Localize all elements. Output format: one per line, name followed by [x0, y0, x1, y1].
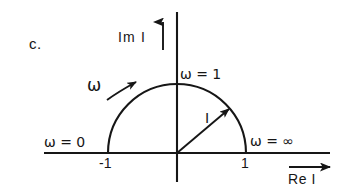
panel-letter: c. [29, 36, 42, 51]
phasor-vector-label: I [205, 110, 210, 125]
figure-canvas [0, 0, 359, 195]
omega-equals-one-label: ω = 1 [180, 67, 221, 81]
nyquist-semicircle-figure: c. Im I Re I ω ω = 1 ω = 0 ω = ∞ -1 1 I [0, 0, 359, 195]
real-axis-label: Re I [288, 172, 316, 186]
omega-sweep-label: ω [87, 77, 101, 94]
tick-label-minus-one: -1 [99, 156, 111, 170]
tick-label-plus-one: 1 [241, 156, 249, 170]
omega-equals-infinity-label: ω = ∞ [250, 134, 294, 148]
omega-equals-zero-label: ω = 0 [44, 135, 85, 149]
phasor-vector-arrow [177, 109, 229, 153]
omega-direction-arrow-icon [107, 82, 136, 100]
imaginary-axis-label: Im I [118, 30, 146, 44]
